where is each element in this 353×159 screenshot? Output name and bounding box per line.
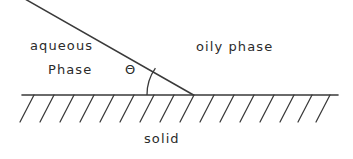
label-aqueous-phase-line2: Phase xyxy=(48,63,92,76)
contact-angle-figure: aqueous Phase Θ oily phase solid xyxy=(0,0,353,159)
label-aqueous-phase-line1: aqueous xyxy=(30,39,93,52)
label-solid: solid xyxy=(144,132,180,145)
solid-hatching xyxy=(20,95,330,122)
label-contact-angle-theta: Θ xyxy=(125,63,135,76)
label-oily-phase: oily phase xyxy=(196,40,273,53)
